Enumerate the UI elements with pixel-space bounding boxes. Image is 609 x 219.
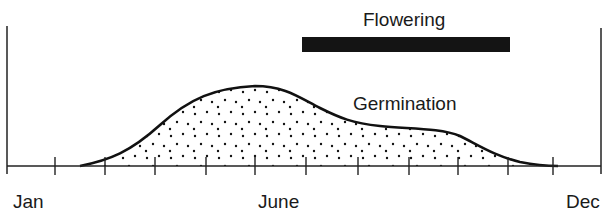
x-label-jan: Jan (13, 191, 44, 213)
flowering-label: Flowering (363, 9, 445, 31)
x-label-june: June (258, 191, 299, 213)
x-label-dec: Dec (566, 191, 600, 213)
diagram-canvas (0, 0, 609, 219)
flowering-bar (302, 37, 510, 52)
germination-label: Germination (353, 93, 457, 115)
germination-area (80, 86, 558, 166)
phenology-diagram: Flowering Germination Jan June Dec (0, 0, 609, 219)
